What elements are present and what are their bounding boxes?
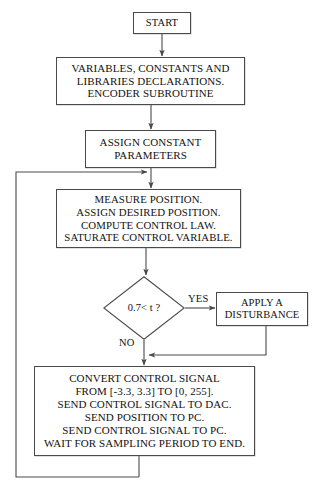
node-convert-control-signal: CONVERT CONTROL SIGNAL FROM [-3.3, 3.3] … xyxy=(34,366,255,456)
node-decision-time-check: 0.7< t ? xyxy=(103,276,185,340)
node-apply-disturbance-label: APPLY A DISTURBANCE xyxy=(225,297,300,322)
node-apply-disturbance: APPLY A DISTURBANCE xyxy=(216,292,308,326)
node-assign-constant-parameters-label: ASSIGN CONSTANT PARAMETERS xyxy=(100,136,202,162)
edge-label-yes: YES xyxy=(188,293,208,304)
node-decision-time-check-label: 0.7< t ? xyxy=(128,302,161,314)
node-measure-position-label: MEASURE POSITION. ASSIGN DESIRED POSITIO… xyxy=(64,193,232,244)
node-measure-position: MEASURE POSITION. ASSIGN DESIRED POSITIO… xyxy=(56,189,241,248)
node-declarations-label: VARIABLES, CONSTANTS AND LIBRARIES DECLA… xyxy=(71,62,229,101)
node-declarations: VARIABLES, CONSTANTS AND LIBRARIES DECLA… xyxy=(56,57,245,105)
flowchart-diagram: START VARIABLES, CONSTANTS AND LIBRARIES… xyxy=(0,0,322,491)
node-start-label: START xyxy=(146,17,178,29)
node-assign-constant-parameters: ASSIGN CONSTANT PARAMETERS xyxy=(85,130,216,168)
node-start: START xyxy=(133,12,191,34)
node-convert-control-signal-label: CONVERT CONTROL SIGNAL FROM [-3.3, 3.3] … xyxy=(44,372,245,450)
edge-label-no: NO xyxy=(119,337,135,348)
